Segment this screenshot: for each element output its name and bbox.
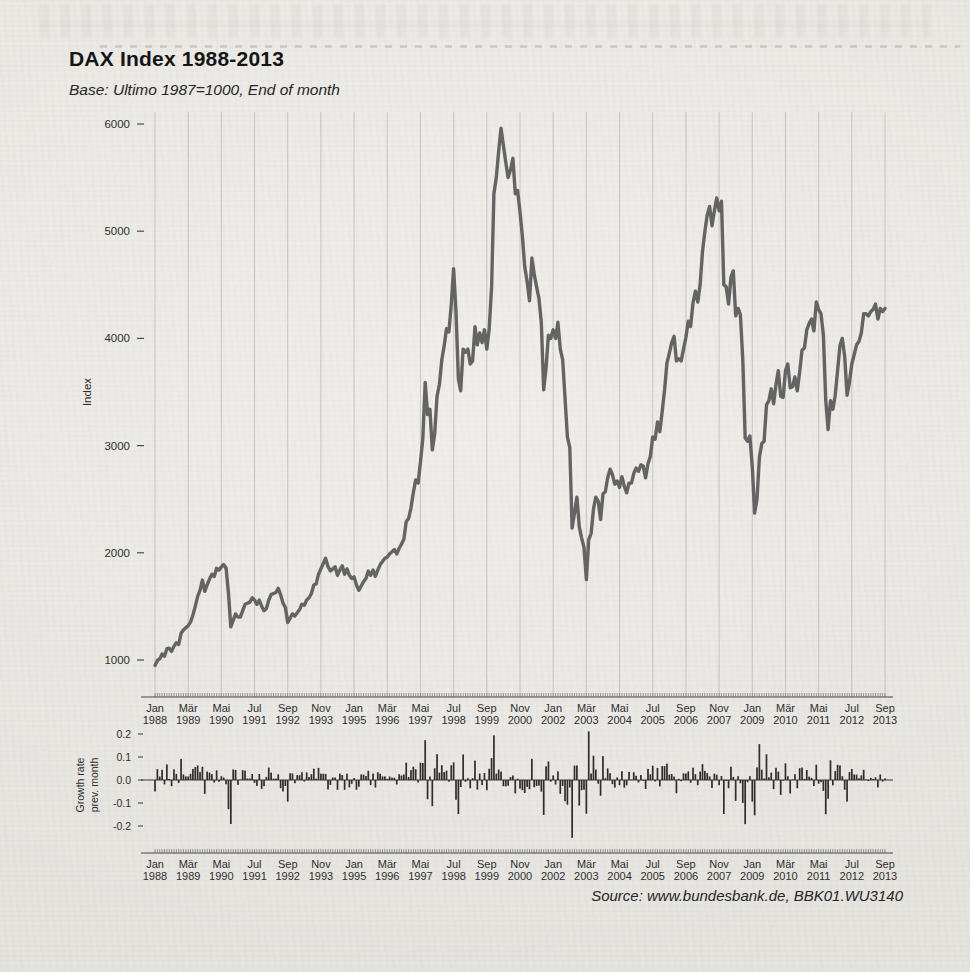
growth-bar — [472, 778, 474, 780]
x-tick-label-year: 2013 — [873, 714, 897, 726]
x-tick-label-year: 1992 — [275, 870, 299, 882]
growth-bar — [235, 770, 237, 780]
growth-bar — [550, 780, 552, 782]
growth-bar — [242, 770, 244, 780]
growth-bar — [469, 780, 471, 788]
growth-bar — [379, 774, 381, 780]
growth-bar — [424, 740, 426, 780]
growth-bar — [714, 774, 716, 780]
growth-bar — [211, 774, 213, 780]
growth-bar — [427, 780, 429, 799]
growth-bar — [588, 731, 590, 780]
growth-bar — [806, 770, 808, 780]
growth-bar — [221, 776, 223, 780]
growth-bar — [834, 771, 836, 780]
x-tick-label-month: Jan — [345, 702, 363, 714]
growth-bar — [863, 770, 865, 780]
growth-bar — [841, 776, 843, 780]
growth-bar — [754, 780, 756, 815]
x-tick-label-month: Jan — [544, 858, 562, 870]
growth-bar — [730, 767, 732, 780]
x-tick-label-year: 2012 — [840, 870, 864, 882]
growth-bar — [294, 780, 296, 783]
growth-bar — [856, 775, 858, 780]
growth-bar — [303, 780, 305, 782]
x-tick-label-month: Jan — [146, 702, 164, 714]
x-tick-label-year: 1998 — [441, 870, 465, 882]
growth-bar — [740, 780, 742, 783]
growth-bar — [356, 780, 358, 790]
x-tick-label-month: Mai — [212, 858, 230, 870]
growth-bar — [642, 780, 644, 781]
growth-bar — [180, 759, 182, 780]
y-tick-label: 3000 — [104, 440, 130, 452]
growth-bar — [640, 775, 642, 780]
growth-bar — [197, 765, 199, 780]
growth-bar — [183, 774, 185, 780]
x-tick-label-year: 2007 — [707, 714, 731, 726]
growth-bar — [420, 763, 422, 780]
growth-bar — [877, 780, 879, 787]
x-tick-label-month: Mär — [577, 858, 596, 870]
growth-bar — [479, 774, 481, 780]
x-tick-label-month: Jan — [743, 702, 761, 714]
growth-bar — [417, 780, 419, 783]
growth-bar — [571, 780, 573, 838]
growth-bar — [206, 772, 208, 780]
growth-bar — [213, 780, 215, 783]
growth-bar — [232, 769, 234, 780]
growth-bar — [375, 780, 377, 788]
growth-bar — [325, 774, 327, 780]
growth-bar — [332, 777, 334, 780]
growth-bar — [157, 769, 159, 780]
growth-bar — [614, 780, 616, 788]
x-tick-label-month: Nov — [709, 702, 729, 714]
growth-bar — [382, 776, 384, 780]
growth-bar — [837, 765, 839, 780]
growth-bar — [858, 778, 860, 780]
growth-bar — [569, 780, 571, 787]
x-tick-label-month: Jul — [646, 702, 660, 714]
growth-bar — [623, 780, 625, 788]
growth-bar — [306, 772, 308, 780]
growth-bar — [756, 767, 758, 780]
growth-bar — [773, 780, 775, 789]
x-tick-label-month: Mär — [378, 858, 397, 870]
x-tick-label-month: Mai — [810, 858, 828, 870]
growth-bar — [602, 756, 604, 780]
growth-bar — [396, 780, 398, 785]
growth-bar — [327, 780, 329, 789]
growth-bar — [884, 778, 886, 780]
growth-bar — [386, 779, 388, 780]
growth-bar — [346, 774, 348, 780]
growth-bar — [590, 773, 592, 780]
x-tick-label-month: Nov — [510, 858, 530, 870]
growth-bar — [263, 780, 265, 786]
x-tick-label-year: 2005 — [640, 870, 664, 882]
growth-bar — [322, 774, 324, 780]
growth-bar — [498, 770, 500, 780]
x-tick-label-month: Jul — [845, 858, 859, 870]
x-tick-label-year: 2006 — [674, 870, 698, 882]
x-tick-label-month: Mai — [212, 702, 230, 714]
x-tick-label-month: Jan — [544, 702, 562, 714]
x-tick-label-year: 1988 — [143, 870, 167, 882]
growth-bar — [540, 780, 542, 792]
growth-bar — [586, 780, 588, 814]
growth-bar — [367, 771, 369, 780]
x-tick-label-month: Mär — [179, 858, 198, 870]
growth-bar — [308, 777, 310, 780]
x-tick-label-month: Sep — [477, 858, 497, 870]
growth-bar — [190, 774, 192, 780]
growth-bar — [529, 780, 531, 789]
growth-bar — [493, 735, 495, 780]
growth-bar — [583, 780, 585, 790]
growth-bar — [562, 780, 564, 786]
growth-bar — [365, 776, 367, 780]
growth-bar — [692, 768, 694, 780]
growth-bar — [448, 780, 450, 782]
growth-bar — [370, 780, 372, 785]
growth-bar — [763, 778, 765, 780]
growth-bar — [408, 777, 410, 780]
growth-bar — [254, 780, 256, 783]
